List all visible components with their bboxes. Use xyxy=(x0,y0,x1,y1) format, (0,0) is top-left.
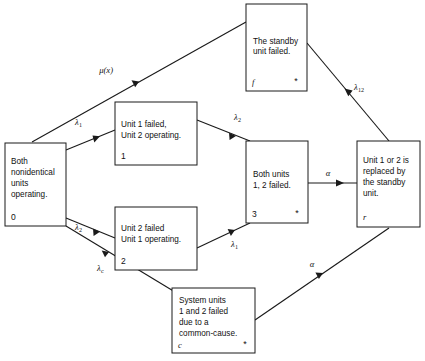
transition-3-to-r-label: α xyxy=(326,168,331,178)
state-box-r-line-1: replaced by xyxy=(363,167,406,176)
state-box-c[interactable]: System units 1 and 2 failed due to a com… xyxy=(172,288,255,353)
transition-2-to-3-label: λ1 xyxy=(230,239,238,250)
state-box-f[interactable]: The standby unit failed. f * xyxy=(246,4,307,91)
transition-0-to-2-line xyxy=(66,218,115,238)
state-box-f-star: * xyxy=(294,76,298,86)
transition-0-to-1-label: λ1 xyxy=(74,117,82,128)
state-box-2-line-1: Unit 1 operating. xyxy=(121,235,181,244)
transition-3-to-r-arrowhead xyxy=(336,180,344,187)
transition-c-to-r: α xyxy=(255,228,389,320)
state-box-r[interactable]: Unit 1 or 2 is replaced by the standby u… xyxy=(357,141,420,227)
diagram-canvas: μ(x) λ1 λ2 λ2 λ1 λc xyxy=(0,0,425,361)
state-box-3-line-0: Both units xyxy=(253,170,289,179)
state-box-0[interactable]: Both nonidentical units operating. 0 xyxy=(5,143,66,226)
transition-0-to-2: λ2 xyxy=(66,218,115,238)
state-box-r-line-0: Unit 1 or 2 is xyxy=(363,156,409,165)
state-box-0-line-3: operating. xyxy=(11,190,47,199)
state-box-2[interactable]: Unit 2 failed Unit 1 operating. 2 xyxy=(115,207,197,270)
state-box-1[interactable]: Unit 1 failed, Unit 2 operating. 1 xyxy=(115,102,197,165)
state-transition-diagram: μ(x) λ1 λ2 λ2 λ1 λc xyxy=(0,0,425,361)
transition-3-to-r: α xyxy=(308,168,357,186)
state-box-0-id: 0 xyxy=(11,212,16,222)
state-box-3-id: 3 xyxy=(252,209,257,219)
state-box-c-line-0: System units xyxy=(179,296,226,305)
transition-1-to-3-line xyxy=(197,120,250,141)
transition-r-to-f: λ12 xyxy=(307,43,389,141)
state-box-1-line-0: Unit 1 failed, xyxy=(121,120,167,129)
state-box-f-line-0: The standby xyxy=(253,37,299,46)
state-box-3[interactable]: Both units 1, 2 failed. 3 * xyxy=(246,141,308,223)
transition-0-to-1-arrowhead xyxy=(93,136,101,143)
state-box-r-line-3: unit. xyxy=(363,189,378,198)
state-box-3-star: * xyxy=(295,208,299,218)
transition-0-to-1-line xyxy=(66,130,115,150)
transition-2-to-3-line xyxy=(197,223,250,248)
transition-1-to-3: λ2 xyxy=(197,112,250,141)
transition-c-to-r-label: α xyxy=(310,259,315,269)
state-box-c-line-2: due to a xyxy=(179,318,209,327)
state-box-2-id: 2 xyxy=(121,256,126,266)
transition-r-to-f-arrowhead xyxy=(345,89,353,97)
transition-f-to-0-label: μ(x) xyxy=(98,65,113,75)
state-box-c-line-3: common-cause. xyxy=(179,329,237,338)
state-box-3-line-1: 1, 2 failed. xyxy=(253,181,291,190)
transition-2-to-3: λ1 xyxy=(197,223,250,250)
state-box-1-id: 1 xyxy=(121,151,126,161)
transition-1-to-3-label: λ2 xyxy=(233,112,241,123)
state-box-f-line-1: unit failed. xyxy=(253,47,290,56)
transition-0-to-1: λ1 xyxy=(66,117,115,150)
state-box-0-line-0: Both xyxy=(11,157,28,166)
state-box-c-id: c xyxy=(178,340,182,350)
state-box-0-line-2: units xyxy=(11,179,28,188)
state-box-0-line-1: nonidentical xyxy=(11,168,55,177)
transition-0-to-c-label: λc xyxy=(96,263,104,274)
state-box-c-line-1: 1 and 2 failed xyxy=(179,307,229,316)
state-box-r-line-2: the standby xyxy=(363,178,406,187)
transition-r-to-f-label: λ12 xyxy=(353,82,364,93)
state-box-2-line-0: Unit 2 failed xyxy=(121,224,165,233)
state-box-1-line-1: Unit 2 operating. xyxy=(121,131,181,140)
state-box-c-star: * xyxy=(243,339,247,349)
